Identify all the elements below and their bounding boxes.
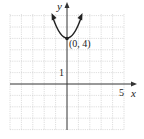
graph: (0, 4) y x 5 1 — [0, 0, 144, 139]
vertex-label: (0, 4) — [69, 38, 91, 50]
y-axis-label: y — [56, 0, 62, 12]
y-tick-label: 1 — [59, 67, 64, 78]
axes — [10, 2, 137, 130]
x-tick-label: 5 — [119, 87, 124, 98]
y-axis-arrow-icon — [65, 2, 70, 8]
x-axis-arrow-icon — [131, 82, 137, 87]
x-axis-label: x — [130, 87, 136, 99]
